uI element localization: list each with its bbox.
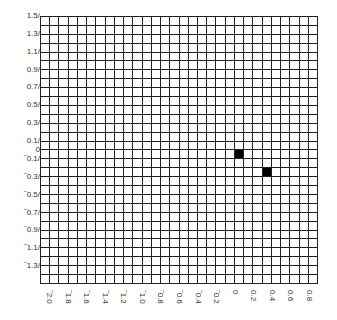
grid-cell <box>170 266 179 275</box>
grid-cell <box>189 257 198 266</box>
grid-cell <box>309 177 318 186</box>
grid-cell <box>69 79 78 88</box>
grid-cell <box>78 124 87 133</box>
grid-cell <box>87 61 96 70</box>
y-tick-label: 0.1/ <box>27 137 40 145</box>
grid-cell <box>106 35 115 44</box>
grid-cell <box>235 257 244 266</box>
grid-cell <box>300 257 309 266</box>
grid-cell <box>115 248 124 257</box>
x-tick-label: ‾1.4 <box>101 290 109 304</box>
grid-cell <box>281 150 290 159</box>
grid-cell <box>41 106 50 115</box>
grid-cell <box>300 168 309 177</box>
grid-cell <box>281 88 290 97</box>
grid-cell <box>78 70 87 79</box>
grid-cell <box>226 17 235 26</box>
grid-cell <box>216 106 225 115</box>
grid-cell <box>281 26 290 35</box>
grid-cell <box>189 213 198 222</box>
grid-cell <box>96 26 105 35</box>
grid-cell <box>78 26 87 35</box>
grid-cell <box>78 257 87 266</box>
grid-cell <box>309 239 318 248</box>
grid-cell <box>216 53 225 62</box>
grid-cell <box>115 106 124 115</box>
grid-cell <box>50 257 59 266</box>
grid-cell <box>152 61 161 70</box>
grid-cell <box>170 106 179 115</box>
grid-cell <box>59 266 68 275</box>
grid-cell <box>69 186 78 195</box>
grid-cell <box>124 177 133 186</box>
grid-cell <box>290 231 299 240</box>
grid-cell <box>226 106 235 115</box>
grid-cell <box>161 266 170 275</box>
grid-cell <box>263 248 272 257</box>
grid-cell <box>309 275 318 284</box>
grid-cell <box>309 248 318 257</box>
grid-cell <box>106 222 115 231</box>
grid-cell <box>235 195 244 204</box>
grid-cell <box>87 159 96 168</box>
y-tick-label: ‾1.1/ <box>24 244 40 252</box>
grid-cell <box>272 97 281 106</box>
grid-cell <box>124 53 133 62</box>
grid-cell <box>161 248 170 257</box>
grid-cell <box>272 17 281 26</box>
grid-cell <box>69 35 78 44</box>
grid-cell <box>133 70 142 79</box>
grid-cell <box>59 204 68 213</box>
grid-cell <box>216 266 225 275</box>
grid-cell <box>207 266 216 275</box>
grid-cell <box>309 17 318 26</box>
grid-cell <box>69 168 78 177</box>
grid-cell <box>272 159 281 168</box>
grid-cell <box>253 186 262 195</box>
grid-cell <box>235 177 244 186</box>
grid-cell <box>226 53 235 62</box>
grid-cell <box>309 257 318 266</box>
grid-cell <box>189 97 198 106</box>
grid-cell <box>41 142 50 151</box>
grid-cell <box>50 70 59 79</box>
grid-cell <box>207 213 216 222</box>
grid-cell <box>50 222 59 231</box>
grid-cell <box>290 266 299 275</box>
grid-cell <box>244 177 253 186</box>
grid-cell <box>41 204 50 213</box>
grid-cell <box>189 115 198 124</box>
grid-cell <box>281 257 290 266</box>
grid-cell <box>207 142 216 151</box>
grid-cell <box>180 17 189 26</box>
grid-cell <box>272 231 281 240</box>
grid-cell <box>290 239 299 248</box>
grid-cell <box>180 257 189 266</box>
grid-cell <box>263 70 272 79</box>
x-tick-label: ‾1.0 <box>138 290 146 304</box>
grid-cell <box>263 35 272 44</box>
grid-cell <box>198 35 207 44</box>
grid-cell <box>115 53 124 62</box>
grid-cell <box>216 17 225 26</box>
grid-cell <box>59 177 68 186</box>
grid-cell <box>69 44 78 53</box>
x-tick-label: 0.2 <box>249 290 257 301</box>
grid-cell <box>309 97 318 106</box>
grid-cell <box>143 61 152 70</box>
grid-cell <box>152 142 161 151</box>
grid-cell <box>106 150 115 159</box>
grid-cell <box>69 195 78 204</box>
grid-cell <box>50 97 59 106</box>
grid-cell <box>207 177 216 186</box>
grid-cell <box>96 106 105 115</box>
grid-cell <box>198 177 207 186</box>
grid-cell <box>281 213 290 222</box>
grid-cell <box>300 266 309 275</box>
grid-cell <box>78 275 87 284</box>
grid-cell <box>309 204 318 213</box>
grid-cell <box>198 257 207 266</box>
grid-cell <box>263 159 272 168</box>
grid-cell <box>152 150 161 159</box>
grid-cell <box>78 222 87 231</box>
